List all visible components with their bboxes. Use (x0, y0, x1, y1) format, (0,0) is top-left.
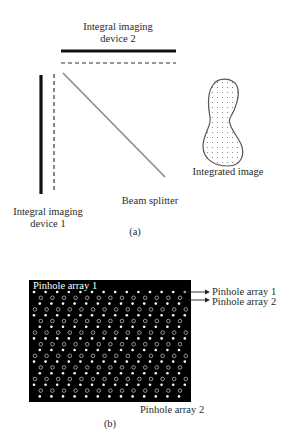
filled-pinhole (126, 314, 129, 317)
filled-pinhole (79, 360, 82, 363)
filled-pinhole (102, 291, 105, 294)
filled-pinhole (131, 372, 134, 375)
filled-pinhole (143, 326, 146, 329)
filled-pinhole (178, 395, 181, 398)
filled-pinhole (39, 349, 42, 352)
filled-pinhole (73, 302, 76, 305)
filled-pinhole (85, 395, 88, 398)
filled-pinhole (44, 360, 47, 363)
filled-pinhole (56, 314, 59, 317)
filled-pinhole (44, 337, 47, 340)
filled-pinhole (160, 337, 163, 340)
filled-pinhole (120, 372, 123, 375)
filled-pinhole (166, 302, 169, 305)
filled-pinhole (160, 314, 163, 317)
filled-pinhole (79, 337, 82, 340)
filled-pinhole (120, 302, 123, 305)
filled-pinhole (85, 349, 88, 352)
filled-pinhole (178, 349, 181, 352)
filled-pinhole (126, 337, 129, 340)
filled-pinhole (184, 360, 187, 363)
filled-pinhole (143, 372, 146, 375)
pinhole-array-2-arrow-label: Pinhole array 2 (212, 296, 276, 308)
filled-pinhole (97, 349, 100, 352)
filled-pinhole (155, 326, 158, 329)
filled-pinhole (97, 302, 100, 305)
filled-pinhole (50, 395, 53, 398)
filled-pinhole (68, 314, 71, 317)
filled-pinhole (91, 337, 94, 340)
filled-pinhole (166, 326, 169, 329)
filled-pinhole (108, 349, 111, 352)
filled-pinhole (120, 395, 123, 398)
filled-pinhole (62, 349, 65, 352)
filled-pinhole (126, 384, 129, 387)
filled-pinhole (114, 384, 117, 387)
filled-pinhole (131, 302, 134, 305)
filled-pinhole (91, 360, 94, 363)
filled-pinhole (39, 395, 42, 398)
integrated-image-shape (203, 79, 243, 166)
caption-b: (b) (100, 418, 120, 430)
pinhole-array-2-bottom-label: Pinhole array 2 (140, 404, 204, 416)
filled-pinhole (108, 395, 111, 398)
filled-pinhole (97, 395, 100, 398)
filled-pinhole (33, 314, 36, 317)
device1-label-line1: Integral imaging (8, 206, 88, 218)
filled-pinhole (68, 384, 71, 387)
filled-pinhole (149, 291, 152, 294)
filled-pinhole (172, 291, 175, 294)
filled-pinhole (143, 302, 146, 305)
integrated-image-label: Integrated image (188, 166, 268, 178)
filled-pinhole (143, 349, 146, 352)
filled-pinhole (85, 372, 88, 375)
filled-pinhole (131, 395, 134, 398)
filled-pinhole (73, 349, 76, 352)
filled-pinhole (137, 384, 140, 387)
filled-pinhole (178, 372, 181, 375)
filled-pinhole (131, 326, 134, 329)
filled-pinhole (79, 384, 82, 387)
filled-pinhole (97, 372, 100, 375)
filled-pinhole (178, 302, 181, 305)
filled-pinhole (178, 326, 181, 329)
beam-splitter-label: Beam splitter (120, 195, 180, 207)
filled-pinhole (120, 326, 123, 329)
filled-pinhole (91, 384, 94, 387)
filled-pinhole (73, 326, 76, 329)
filled-pinhole (102, 314, 105, 317)
filled-pinhole (166, 372, 169, 375)
filled-pinhole (149, 337, 152, 340)
filled-pinhole (108, 326, 111, 329)
arrowhead-icon (205, 290, 210, 295)
filled-pinhole (108, 302, 111, 305)
filled-pinhole (39, 302, 42, 305)
filled-pinhole (56, 384, 59, 387)
filled-pinhole (126, 360, 129, 363)
filled-pinhole (160, 384, 163, 387)
filled-pinhole (160, 360, 163, 363)
filled-pinhole (149, 314, 152, 317)
filled-pinhole (85, 302, 88, 305)
filled-pinhole (56, 337, 59, 340)
filled-pinhole (149, 384, 152, 387)
filled-pinhole (114, 291, 117, 294)
filled-pinhole (73, 372, 76, 375)
filled-pinhole (108, 372, 111, 375)
filled-pinhole (102, 337, 105, 340)
filled-pinhole (62, 326, 65, 329)
filled-pinhole (137, 360, 140, 363)
filled-pinhole (155, 395, 158, 398)
filled-pinhole (166, 349, 169, 352)
device1-label-line2: device 1 (8, 218, 88, 230)
filled-pinhole (137, 314, 140, 317)
filled-pinhole (166, 395, 169, 398)
filled-pinhole (184, 384, 187, 387)
filled-pinhole (114, 337, 117, 340)
filled-pinhole (33, 384, 36, 387)
filled-pinhole (172, 314, 175, 317)
filled-pinhole (39, 326, 42, 329)
filled-pinhole (143, 395, 146, 398)
filled-pinhole (50, 326, 53, 329)
filled-pinhole (172, 337, 175, 340)
